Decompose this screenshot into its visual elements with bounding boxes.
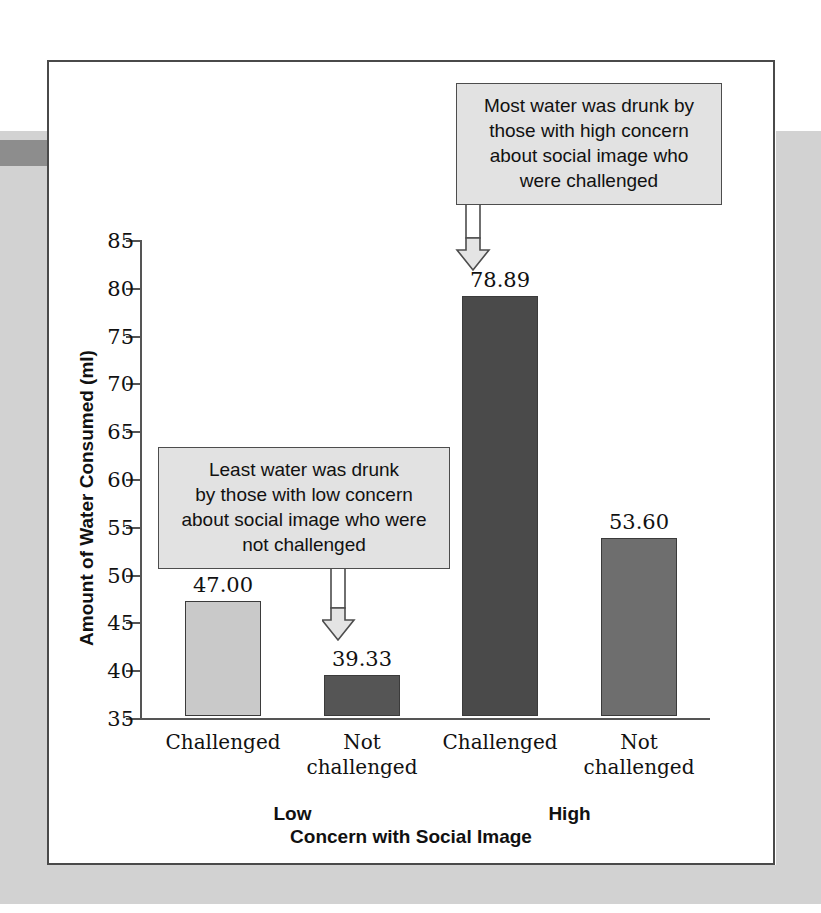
annotation-line: were challenged [467, 168, 711, 193]
y-axis-tick-label: 60 [107, 468, 134, 492]
page-background-right-strip [776, 131, 821, 865]
bar-value-label: 53.60 [609, 510, 669, 534]
annotation-arrow-high-concern [452, 204, 532, 280]
y-axis-tick-label: 85 [107, 229, 134, 253]
y-axis-tick-label: 35 [107, 707, 134, 731]
bar [185, 601, 261, 716]
x-axis-category-label: Not challenged [307, 730, 418, 780]
page-background-bottom-strip [0, 865, 821, 904]
x-axis-title: Concern with Social Image [290, 826, 532, 848]
x-axis-line [140, 718, 710, 720]
y-axis-tick-label: 75 [107, 325, 134, 349]
bar-value-label: 39.33 [332, 647, 392, 671]
annotation-line: Least water was drunk [169, 457, 439, 482]
bar [324, 675, 400, 716]
x-axis-category-label: Challenged [165, 730, 280, 755]
annotation-line: by those with low concern [169, 482, 439, 507]
x-axis-group-label: High [548, 803, 590, 825]
annotation-callout-high-concern: Most water was drunk by those with high … [456, 83, 722, 205]
page-background-left-accent [0, 140, 48, 166]
x-axis-category-label: Challenged [442, 730, 557, 755]
y-axis-tick-label: 65 [107, 420, 134, 444]
annotation-line: Most water was drunk by [467, 93, 711, 118]
bar [601, 538, 677, 716]
annotation-line: about social image who were [169, 507, 439, 532]
annotation-line: those with high concern [467, 118, 711, 143]
annotation-line: about social image who [467, 143, 711, 168]
x-axis-group-label: Low [274, 803, 312, 825]
y-axis-tick-label: 55 [107, 516, 134, 540]
y-axis-tick-label: 80 [107, 277, 134, 301]
y-axis-tick-label: 70 [107, 372, 134, 396]
page-background-left-strip [0, 131, 48, 865]
annotation-callout-low-concern: Least water was drunk by those with low … [158, 447, 450, 569]
annotation-arrow-low-concern [322, 568, 402, 648]
x-axis-category-label: Not challenged [584, 730, 695, 780]
bar-value-label: 47.00 [193, 573, 253, 597]
y-axis-tick-label: 40 [107, 659, 134, 683]
annotation-line: not challenged [169, 532, 439, 557]
bar [462, 296, 538, 716]
y-axis-title: Amount of Water Consumed (ml) [76, 278, 98, 718]
y-axis-tick-label: 50 [107, 564, 134, 588]
y-axis-tick-label: 45 [107, 611, 134, 635]
